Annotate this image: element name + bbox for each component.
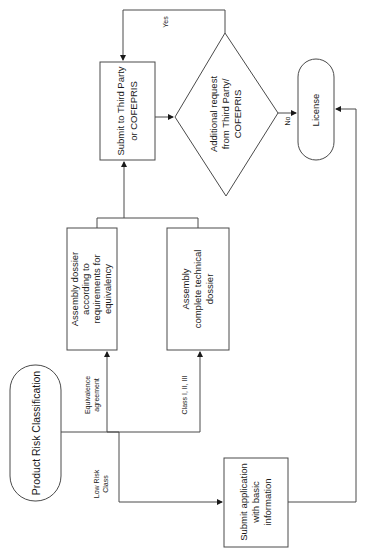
node-start-label: Product Risk Classification [30,371,42,495]
equivalence-label-line-1: Equivalence [84,376,92,414]
decision-line-1: Additional request [208,76,219,152]
node-submit-third-party: Submit to Third Party or COFEPRIS [100,62,155,160]
submit-application-line-2: with basic [250,481,261,524]
flowchart-canvas: Product Risk Classification Assembly dos… [0,0,366,560]
equivalence-dossier-line-3: requirements for [91,254,102,323]
node-product-risk-classification: Product Risk Classification [10,365,61,501]
equivalence-dossier-line-1: Assembly dossier [69,252,80,326]
edge-label-low-risk: Low Risk Class [93,469,109,498]
submit-application-line-3: information [262,479,273,526]
equivalence-label-line-2: agreement [93,378,101,412]
node-license: License [298,59,334,160]
no-label: No [284,116,291,125]
edge-label-yes: Yes [162,16,169,28]
submit-third-party-line-1: Submit to Third Party [115,66,126,155]
decision-line-3: COFEPRIS [232,90,243,139]
class-label: Class I, II, III [181,376,188,415]
connector-merge [97,218,198,228]
node-technical-dossier: Assembly complete technical dossier [167,228,229,350]
connector-low-risk [119,432,222,502]
low-risk-label-line-2: Class [102,475,109,493]
node-decision-additional-request: Additional request from Third Party/ COF… [175,33,278,196]
low-risk-label-line-1: Low Risk [93,469,100,498]
edge-label-equivalence: Equivalence agreement [84,376,101,414]
edge-label-no: No [284,116,291,125]
equivalence-dossier-line-2: according to [80,263,91,315]
technical-dossier-line-3: dossier [204,274,215,305]
yes-label: Yes [162,16,169,28]
technical-dossier-line-1: Assembly [180,268,191,309]
connector-application-to-license [288,109,356,502]
connector-yes-loop [123,10,225,60]
license-label: License [310,94,321,127]
equivalence-dossier-line-4: equivalency [102,264,113,314]
node-equivalence-dossier: Assembly dossier according to requiremen… [67,228,117,350]
edge-label-class: Class I, II, III [181,376,188,415]
submit-application-line-1: Submit application [238,463,249,541]
node-submit-application: Submit application with basic informatio… [224,458,288,547]
submit-third-party-line-2: or COFEPRIS [128,81,139,141]
technical-dossier-line-2: complete technical [192,250,203,329]
flowchart-svg: Product Risk Classification Assembly dos… [0,0,366,560]
decision-line-2: from Third Party/ [220,78,231,149]
